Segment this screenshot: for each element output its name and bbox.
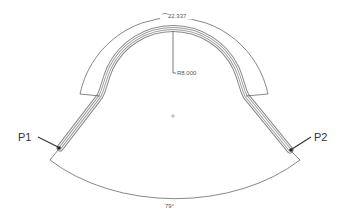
bent-tube-drawing: ⌒22.337 R8.000 79° P1 P2	[0, 0, 341, 218]
radius-label: R8.000	[177, 70, 197, 76]
angle-label: 79°	[165, 203, 175, 209]
arc-length-label: ⌒22.337	[162, 13, 187, 19]
p2-marker	[289, 137, 311, 152]
center-mark	[171, 114, 175, 118]
radius-leader	[173, 31, 176, 73]
p1-marker	[38, 137, 61, 150]
p2-label: P2	[314, 131, 327, 143]
p1-label: P1	[18, 131, 31, 143]
tube-profile	[60, 29, 290, 150]
angle-dimension	[50, 150, 300, 199]
